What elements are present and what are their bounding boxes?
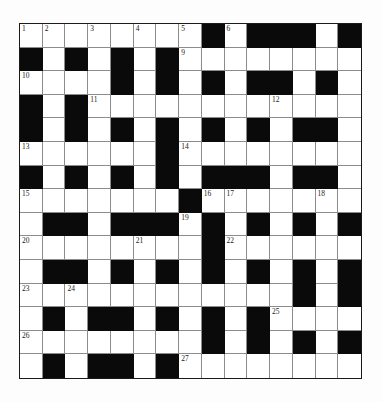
crossword-cell[interactable]: [270, 48, 293, 72]
crossword-cell[interactable]: [88, 189, 111, 213]
crossword-cell[interactable]: [225, 284, 248, 308]
crossword-cell[interactable]: 11: [88, 95, 111, 119]
crossword-cell[interactable]: [88, 142, 111, 166]
crossword-cell[interactable]: [134, 189, 157, 213]
crossword-cell[interactable]: [338, 142, 361, 166]
crossword-cell[interactable]: [156, 95, 179, 119]
crossword-cell[interactable]: 21: [134, 236, 157, 260]
crossword-cell[interactable]: 18: [316, 189, 339, 213]
crossword-cell[interactable]: 16: [202, 189, 225, 213]
crossword-cell[interactable]: [225, 307, 248, 331]
crossword-cell[interactable]: [179, 236, 202, 260]
crossword-cell[interactable]: [179, 260, 202, 284]
crossword-cell[interactable]: [338, 166, 361, 190]
crossword-cell[interactable]: [111, 284, 134, 308]
crossword-cell[interactable]: 4: [134, 24, 157, 48]
crossword-cell[interactable]: 20: [20, 236, 43, 260]
crossword-cell[interactable]: 5: [179, 24, 202, 48]
crossword-cell[interactable]: [270, 189, 293, 213]
crossword-cell[interactable]: [134, 331, 157, 355]
crossword-cell[interactable]: [111, 142, 134, 166]
crossword-cell[interactable]: [202, 48, 225, 72]
crossword-cell[interactable]: [43, 189, 66, 213]
crossword-cell[interactable]: 3: [88, 24, 111, 48]
crossword-cell[interactable]: [225, 48, 248, 72]
crossword-cell[interactable]: 22: [225, 236, 248, 260]
crossword-cell[interactable]: [316, 236, 339, 260]
crossword-cell[interactable]: [316, 24, 339, 48]
crossword-cell[interactable]: [225, 95, 248, 119]
crossword-cell[interactable]: [43, 284, 66, 308]
crossword-cell[interactable]: [316, 307, 339, 331]
crossword-cell[interactable]: [247, 284, 270, 308]
crossword-cell[interactable]: 14: [179, 142, 202, 166]
crossword-cell[interactable]: 13: [20, 142, 43, 166]
crossword-cell[interactable]: [316, 354, 339, 378]
crossword-cell[interactable]: [134, 71, 157, 95]
crossword-cell[interactable]: [134, 95, 157, 119]
crossword-cell[interactable]: 27: [179, 354, 202, 378]
crossword-cell[interactable]: [134, 354, 157, 378]
crossword-cell[interactable]: 12: [270, 95, 293, 119]
crossword-cell[interactable]: [202, 142, 225, 166]
crossword-cell[interactable]: [293, 95, 316, 119]
crossword-cell[interactable]: [88, 166, 111, 190]
crossword-cell[interactable]: 25: [270, 307, 293, 331]
crossword-cell[interactable]: [134, 260, 157, 284]
crossword-cell[interactable]: [179, 284, 202, 308]
crossword-cell[interactable]: [225, 142, 248, 166]
crossword-cell[interactable]: [88, 331, 111, 355]
crossword-cell[interactable]: [88, 71, 111, 95]
crossword-cell[interactable]: [270, 166, 293, 190]
crossword-cell[interactable]: [338, 71, 361, 95]
crossword-cell[interactable]: [316, 331, 339, 355]
crossword-cell[interactable]: [293, 189, 316, 213]
crossword-cell[interactable]: [156, 189, 179, 213]
crossword-cell[interactable]: [270, 213, 293, 237]
crossword-cell[interactable]: [134, 48, 157, 72]
crossword-cell[interactable]: [247, 95, 270, 119]
crossword-cell[interactable]: [270, 118, 293, 142]
crossword-cell[interactable]: [20, 260, 43, 284]
crossword-cell[interactable]: [65, 307, 88, 331]
crossword-cell[interactable]: [156, 331, 179, 355]
crossword-cell[interactable]: [293, 142, 316, 166]
crossword-cell[interactable]: [43, 95, 66, 119]
crossword-cell[interactable]: [43, 331, 66, 355]
crossword-cell[interactable]: 19: [179, 213, 202, 237]
crossword-cell[interactable]: [225, 213, 248, 237]
crossword-cell[interactable]: [338, 354, 361, 378]
crossword-cell[interactable]: [338, 307, 361, 331]
crossword-cell[interactable]: [316, 213, 339, 237]
crossword-cell[interactable]: [43, 142, 66, 166]
crossword-cell[interactable]: [20, 213, 43, 237]
crossword-cell[interactable]: [111, 24, 134, 48]
crossword-cell[interactable]: [156, 236, 179, 260]
crossword-cell[interactable]: [43, 118, 66, 142]
crossword-cell[interactable]: [88, 284, 111, 308]
crossword-cell[interactable]: [20, 307, 43, 331]
crossword-cell[interactable]: [88, 213, 111, 237]
crossword-cell[interactable]: [270, 354, 293, 378]
crossword-cell[interactable]: [111, 331, 134, 355]
crossword-cell[interactable]: 15: [20, 189, 43, 213]
crossword-cell[interactable]: [43, 236, 66, 260]
crossword-cell[interactable]: [43, 166, 66, 190]
crossword-cell[interactable]: [293, 48, 316, 72]
crossword-cell[interactable]: [88, 260, 111, 284]
crossword-cell[interactable]: [202, 95, 225, 119]
crossword-cell[interactable]: [179, 166, 202, 190]
crossword-cell[interactable]: [247, 354, 270, 378]
crossword-cell[interactable]: [338, 118, 361, 142]
crossword-cell[interactable]: [65, 71, 88, 95]
crossword-cell[interactable]: [88, 118, 111, 142]
crossword-cell[interactable]: [338, 189, 361, 213]
crossword-cell[interactable]: [179, 307, 202, 331]
crossword-cell[interactable]: [65, 331, 88, 355]
crossword-cell[interactable]: [270, 260, 293, 284]
crossword-cell[interactable]: [338, 236, 361, 260]
crossword-cell[interactable]: [111, 189, 134, 213]
crossword-cell[interactable]: [43, 48, 66, 72]
crossword-cell[interactable]: [270, 331, 293, 355]
crossword-cell[interactable]: [202, 284, 225, 308]
